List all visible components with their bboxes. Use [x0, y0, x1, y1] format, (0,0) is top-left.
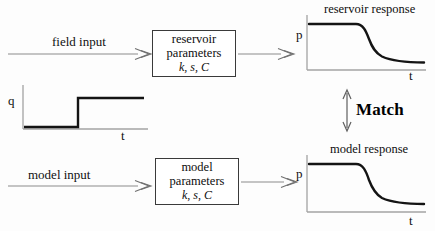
reservoir-output-arrow [238, 46, 298, 62]
reservoir-parameters-box: reservoir parameters k, s, C [152, 30, 236, 77]
field-rate-chart [22, 85, 150, 133]
reservoir-response-ylabel: p [296, 27, 303, 43]
reservoir-box-line2: parameters [167, 47, 222, 61]
model-box-line2: parameters [170, 175, 225, 189]
field-input-arrow [8, 46, 156, 62]
match-double-arrow-icon [340, 88, 354, 133]
reservoir-response-chart [306, 15, 428, 73]
reservoir-box-line1: reservoir [172, 33, 216, 47]
reservoir-box-line3: k, s, C [179, 61, 209, 74]
model-output-arrow [241, 174, 301, 190]
model-response-ylabel: p [296, 166, 303, 182]
field-rate-ylabel: q [8, 93, 15, 109]
match-label: Match [356, 100, 404, 120]
model-parameters-box: model parameters k, s, C [155, 158, 239, 205]
model-response-xlabel: t [409, 213, 413, 229]
history-match-diagram: field input reservoir parameters k, s, C… [0, 0, 435, 231]
model-input-arrow [8, 178, 156, 194]
model-box-line1: model [181, 161, 212, 175]
model-response-chart [306, 155, 428, 215]
model-box-line3: k, s, C [182, 189, 212, 202]
